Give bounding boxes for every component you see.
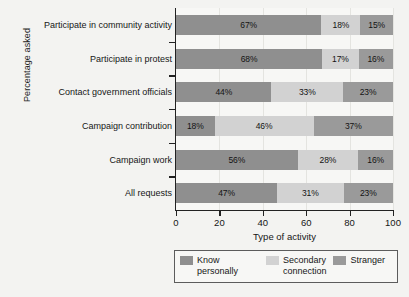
y-axis-line [175, 8, 176, 211]
bar-row[interactable]: 56%28%16% [176, 150, 393, 170]
y-axis-category-label: Contact government officials [12, 87, 172, 97]
bar-segment[interactable]: 31% [277, 183, 344, 203]
y-axis-category-label: Campaign work [12, 155, 172, 165]
chart-legend: Know personallySecondary connectionStran… [174, 250, 398, 283]
bar-segment-value: 28% [320, 155, 337, 165]
bar-segment[interactable]: 67% [176, 15, 321, 35]
bar-row[interactable]: 47%31%23% [176, 183, 393, 203]
x-axis-tick [219, 211, 220, 216]
y-axis-tick [169, 42, 175, 43]
plot-area: 67%18%15%68%17%16%44%33%23%18%46%37%56%2… [176, 8, 393, 210]
x-axis-line [175, 210, 394, 211]
x-axis-tick-label: 100 [378, 217, 408, 228]
y-axis-category-label: Participate in protest [12, 54, 172, 64]
x-axis-tick [263, 211, 264, 216]
bar-segment-value: 44% [215, 87, 232, 97]
bar-segment-value: 15% [368, 20, 385, 30]
y-axis-tick [169, 109, 175, 110]
stacked-bar-chart-figure: Percentage asked Participate in communit… [0, 0, 409, 297]
bar-segment-value: 31% [302, 188, 319, 198]
bar-row[interactable]: 44%33%23% [176, 82, 393, 102]
bar-segment-value: 56% [228, 155, 245, 165]
y-axis-category-label: All requests [12, 188, 172, 198]
bar-segment[interactable]: 23% [344, 183, 393, 203]
y-axis-tick [169, 176, 175, 177]
bar-segment-value: 37% [345, 121, 362, 131]
x-axis-tick-label: 80 [335, 217, 365, 228]
bar-segment[interactable]: 33% [271, 82, 343, 102]
bar-segment-value: 67% [240, 20, 257, 30]
bar-segment[interactable]: 46% [215, 116, 314, 136]
x-axis-tick-label: 60 [291, 217, 321, 228]
y-axis-tick [169, 143, 175, 144]
x-axis-title: Type of activity [176, 231, 393, 242]
gridline [393, 8, 394, 210]
x-axis-tick [350, 211, 351, 216]
bar-segment[interactable]: 28% [298, 150, 359, 170]
bar-segment-value: 18% [187, 121, 204, 131]
bar-segment[interactable]: 44% [176, 82, 271, 102]
bar-segment-value: 46% [256, 121, 273, 131]
bar-segment-value: 68% [241, 54, 258, 64]
bar-row[interactable]: 18%46%37% [176, 116, 393, 136]
y-axis-category-label: Participate in community activity [12, 20, 172, 30]
plot-background [176, 8, 393, 210]
bar-segment-value: 33% [299, 87, 316, 97]
bar-segment-value: 17% [332, 54, 349, 64]
bar-segment[interactable]: 16% [359, 49, 393, 69]
x-axis-tick-label: 40 [248, 217, 278, 228]
bar-segment-value: 23% [360, 188, 377, 198]
bar-segment[interactable]: 18% [321, 15, 360, 35]
bar-segment[interactable]: 68% [176, 49, 322, 69]
bar-segment[interactable]: 23% [343, 82, 393, 102]
legend-swatch-icon [180, 256, 193, 265]
bar-segment-value: 47% [218, 188, 235, 198]
legend-swatch-icon [266, 256, 279, 265]
legend-item[interactable]: Stranger [333, 255, 385, 266]
bar-segment[interactable]: 47% [176, 183, 277, 203]
gridline [306, 8, 307, 210]
bar-row[interactable]: 68%17%16% [176, 49, 393, 69]
bar-segment-value: 16% [367, 155, 384, 165]
bar-segment[interactable]: 17% [322, 49, 359, 69]
legend-item[interactable]: Secondary connection [266, 255, 327, 277]
x-axis-tick [393, 211, 394, 216]
legend-swatch-icon [333, 256, 346, 265]
bar-segment[interactable]: 16% [358, 150, 393, 170]
y-axis-category-labels: Participate in community activityPartici… [12, 8, 172, 210]
bar-segment-value: 23% [360, 87, 377, 97]
bar-segment[interactable]: 56% [176, 150, 298, 170]
legend-item[interactable]: Know personally [180, 255, 259, 277]
bar-segment[interactable]: 15% [360, 15, 393, 35]
gridline [263, 8, 264, 210]
x-axis-tick-label: 0 [161, 217, 191, 228]
gridline [219, 8, 220, 210]
bar-segment[interactable]: 37% [314, 116, 394, 136]
bar-segment-value: 16% [367, 54, 384, 64]
x-axis-tick-label: 20 [204, 217, 234, 228]
y-axis-category-label: Campaign contribution [12, 121, 172, 131]
bar-row[interactable]: 67%18%15% [176, 15, 393, 35]
x-axis-tick [306, 211, 307, 216]
x-axis-tick [176, 211, 177, 216]
legend-label: Know personally [197, 255, 259, 277]
legend-label: Stranger [350, 255, 385, 266]
gridline [350, 8, 351, 210]
bar-segment-value: 18% [333, 20, 350, 30]
y-axis-tick [169, 75, 175, 76]
legend-label: Secondary connection [283, 255, 327, 277]
bar-segment[interactable]: 18% [176, 116, 215, 136]
